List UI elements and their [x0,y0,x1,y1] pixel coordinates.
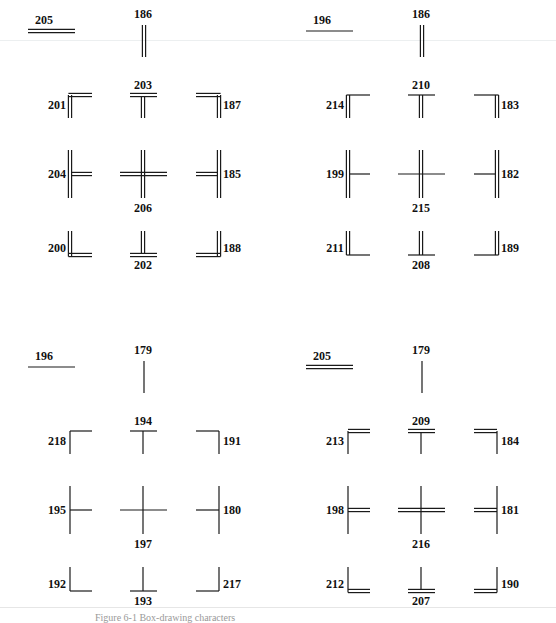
code-label-tee-down: 210 [412,79,430,91]
code-label-tee-down: 209 [412,415,430,427]
code-label-tee-down: 203 [134,79,152,91]
code-label-horizontal: 205 [313,350,331,362]
code-label-cross: 197 [134,538,152,550]
code-label-corner-top-left: 201 [48,99,66,111]
code-label-tee-right: 204 [48,168,66,180]
code-label-tee-right: 195 [48,504,66,516]
code-label-corner-bottom-left: 200 [48,242,66,254]
code-label-tee-up: 208 [412,259,430,271]
code-label-tee-right: 198 [326,504,344,516]
code-label-tee-right: 199 [326,168,344,180]
code-label-vertical: 179 [412,344,430,356]
code-label-vertical: 179 [134,344,152,356]
box-drawing-diagram [0,0,556,623]
code-label-corner-bottom-left: 212 [326,578,344,590]
code-label-tee-left: 180 [223,504,241,516]
code-label-corner-bottom-right: 217 [223,578,241,590]
code-label-corner-bottom-left: 192 [48,578,66,590]
figure-caption: Figure 6-1 Box-drawing characters [95,612,235,623]
code-label-corner-bottom-left: 211 [326,242,343,254]
code-label-corner-bottom-right: 190 [501,578,519,590]
code-label-tee-up: 207 [412,595,430,607]
code-label-cross: 215 [412,202,430,214]
code-label-corner-top-left: 213 [326,435,344,447]
code-label-corner-top-left: 218 [48,435,66,447]
code-label-vertical: 186 [134,8,152,20]
code-label-corner-top-right: 191 [223,435,241,447]
code-label-tee-left: 182 [501,168,519,180]
code-label-corner-bottom-right: 189 [501,242,519,254]
code-label-horizontal: 196 [313,14,331,26]
code-label-tee-down: 194 [134,415,152,427]
code-label-horizontal: 196 [35,350,53,362]
code-label-tee-up: 202 [134,259,152,271]
code-label-corner-top-right: 183 [501,99,519,111]
code-label-tee-left: 181 [501,504,519,516]
code-label-tee-left: 185 [223,168,241,180]
code-label-cross: 206 [134,202,152,214]
code-label-tee-up: 193 [134,595,152,607]
code-label-corner-top-right: 187 [223,99,241,111]
code-label-corner-top-left: 214 [326,99,344,111]
code-label-cross: 216 [412,538,430,550]
code-label-vertical: 186 [412,8,430,20]
code-label-corner-top-right: 184 [501,435,519,447]
code-label-corner-bottom-right: 188 [223,242,241,254]
code-label-horizontal: 205 [35,14,53,26]
